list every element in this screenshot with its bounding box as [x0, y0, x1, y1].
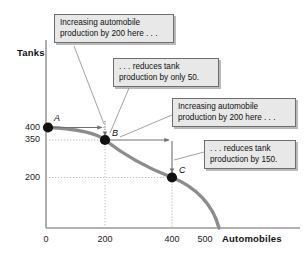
- y-axis-title: Tanks: [17, 47, 45, 58]
- point-label-a: A: [54, 113, 60, 123]
- x-axis-title: Automobiles: [222, 233, 282, 244]
- leader-line-4: [174, 152, 204, 160]
- y-tick-label-350: 350: [14, 134, 40, 144]
- y-tick-label-400: 400: [14, 122, 40, 132]
- leader-line-2: [110, 88, 129, 133]
- data-point-b: [100, 135, 110, 145]
- data-point-c: [167, 172, 177, 182]
- point-label-b: B: [112, 128, 118, 138]
- callout-box-1: Increasing automobile production by 200 …: [54, 14, 174, 43]
- x-tick-label-500: 500: [192, 234, 218, 244]
- callout-box-3: Increasing automobile production by 200 …: [172, 98, 296, 127]
- data-point-a: [43, 122, 53, 132]
- arrow-group-b-to-c: [108, 140, 172, 173]
- x-tick-label-0: 0: [33, 234, 59, 244]
- y-tick-label-200: 200: [14, 172, 40, 182]
- x-tick-label-400: 400: [159, 234, 185, 244]
- callout-box-2: . . . reduces tank production by only 50…: [113, 58, 219, 87]
- leader-line-1: [74, 46, 104, 124]
- leader-line-3: [120, 115, 172, 137]
- point-label-c: C: [179, 165, 186, 175]
- x-tick-label-200: 200: [92, 234, 118, 244]
- ppf-chart-figure: Tanks Automobiles 400 350 200 0 200 400 …: [0, 0, 307, 263]
- callout-box-4: . . . reduces tank production by 150.: [204, 140, 296, 169]
